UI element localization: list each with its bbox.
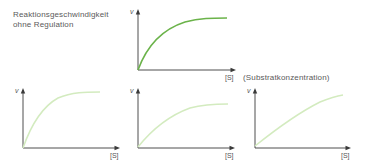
x-axis-label: [S] bbox=[341, 152, 350, 160]
y-axis-label: v bbox=[247, 87, 251, 94]
panel-bottom-left: v [S] bbox=[15, 87, 120, 160]
x-axis-label: [S] bbox=[225, 152, 234, 160]
rate-curve bbox=[138, 18, 227, 70]
panel-bottom-middle: v [S] bbox=[130, 87, 235, 160]
panel-top: v [S] bbox=[130, 8, 236, 82]
x-axis-label: [S] bbox=[225, 74, 234, 82]
y-axis-arrow-icon bbox=[136, 9, 140, 15]
y-axis-arrow-icon bbox=[21, 88, 25, 94]
x-axis-arrow-icon bbox=[230, 146, 236, 150]
rate-curve bbox=[138, 104, 228, 147]
y-axis-label: v bbox=[130, 87, 134, 94]
diagram-canvas: v [S] v [S] v [S] v [S] bbox=[0, 0, 368, 165]
y-axis-label: v bbox=[130, 8, 134, 15]
x-axis-label: [S] bbox=[110, 152, 119, 160]
y-axis-arrow-icon bbox=[136, 88, 140, 94]
x-axis-arrow-icon bbox=[231, 68, 237, 72]
x-axis-arrow-icon bbox=[346, 146, 352, 150]
panel-bottom-right: v [S] bbox=[247, 87, 351, 160]
y-axis-arrow-icon bbox=[253, 88, 257, 94]
rate-curve bbox=[23, 92, 100, 148]
x-axis-arrow-icon bbox=[115, 146, 121, 150]
rate-curve bbox=[255, 95, 343, 146]
y-axis-label: v bbox=[15, 87, 19, 94]
